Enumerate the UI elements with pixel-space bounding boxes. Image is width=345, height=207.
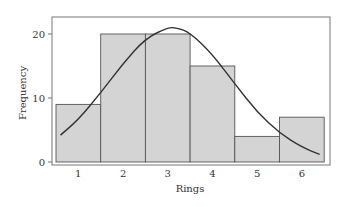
y-tick-label: 0	[39, 157, 45, 168]
x-tick-label: 3	[165, 168, 171, 179]
histogram-bar	[145, 34, 190, 162]
x-axis-title: Rings	[176, 183, 205, 194]
x-tick-label: 5	[254, 168, 260, 179]
y-tick-label: 20	[32, 29, 45, 40]
y-tick-label: 10	[32, 93, 45, 104]
x-tick-label: 1	[75, 168, 81, 179]
histogram-bar	[190, 66, 235, 162]
x-axis: 123456	[75, 168, 305, 179]
x-tick-label: 6	[299, 168, 305, 179]
x-tick-label: 4	[209, 168, 215, 179]
histogram-bar	[280, 117, 325, 162]
y-axis: 01020	[32, 29, 52, 168]
x-tick-label: 2	[120, 168, 126, 179]
histogram-bar	[235, 136, 280, 162]
histogram-chart: 01020 123456 Rings Frequency	[0, 0, 345, 207]
y-axis-title: Frequency	[17, 66, 28, 120]
histogram-bar	[101, 34, 146, 162]
